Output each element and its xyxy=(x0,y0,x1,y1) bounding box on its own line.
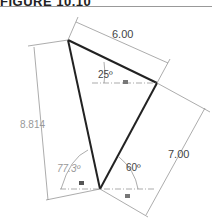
horizontal-constraint-icon xyxy=(123,80,128,84)
angle-top: 25º xyxy=(98,69,113,80)
triangle-diagram: 6.00 7.00 8.814 25º 60º 77.3º xyxy=(0,0,219,222)
angle-bottom-right: 60º xyxy=(126,162,141,173)
triangle xyxy=(68,40,157,189)
horizontal-constraint-icon xyxy=(79,181,84,185)
dim-top-edge: 6.00 xyxy=(112,28,133,40)
dim-right-edge: 7.00 xyxy=(168,148,189,160)
angle-bottom-left: 77.3º xyxy=(57,163,81,174)
dim-left-edge: 8.814 xyxy=(20,119,45,130)
horizontal-constraint-icon xyxy=(125,194,130,198)
dimension-lines xyxy=(28,17,210,217)
